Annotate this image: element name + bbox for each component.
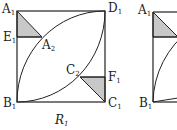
- label-right-b1: B1: [139, 96, 152, 111]
- label-e1: E1: [3, 30, 16, 45]
- right-figure-partial: A1 B1: [137, 3, 177, 111]
- right-arc: [153, 30, 177, 102]
- label-b1: B1: [3, 96, 16, 111]
- label-d1: D1: [108, 1, 122, 16]
- left-figure: A1 E1 A2 D1 C2 F1 C1 B1 R1: [1, 1, 122, 128]
- label-a2: A2: [41, 38, 55, 53]
- label-a1: A1: [1, 2, 15, 17]
- shaded-triangle-right: [153, 12, 177, 37]
- geometry-figure: A1 E1 A2 D1 C2 F1 C1 B1 R1 A1 B1: [0, 0, 177, 130]
- label-c2: C2: [66, 63, 80, 78]
- caption-r1: R1: [54, 113, 69, 128]
- shaded-triangle-c1-f1-c2: [80, 77, 105, 102]
- label-right-a1: A1: [137, 3, 151, 18]
- label-f1: F1: [108, 70, 121, 85]
- label-c1: C1: [108, 96, 122, 111]
- shaded-triangle-a1-e1-a2: [17, 11, 42, 37]
